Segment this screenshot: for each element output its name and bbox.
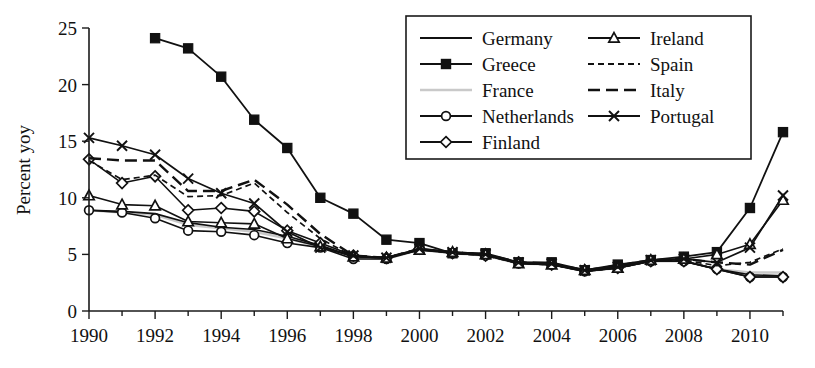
x-tick-label: 1992 bbox=[136, 325, 174, 346]
data-point bbox=[183, 174, 193, 184]
legend-label: France bbox=[482, 80, 534, 101]
x-tick-label: 1998 bbox=[334, 325, 372, 346]
series-line bbox=[89, 210, 783, 276]
data-point bbox=[150, 34, 159, 43]
legend-label: Finland bbox=[482, 132, 541, 153]
y-tick-label: 25 bbox=[58, 18, 77, 39]
data-point bbox=[216, 203, 227, 214]
x-tick-label: 1996 bbox=[268, 325, 306, 346]
y-axis-title: Percent yoy bbox=[13, 124, 34, 215]
data-point bbox=[382, 235, 391, 244]
data-point bbox=[151, 214, 160, 223]
legend-label: Portugal bbox=[650, 106, 714, 127]
x-tick-label: 2004 bbox=[533, 325, 572, 346]
data-point bbox=[250, 231, 259, 240]
data-point bbox=[441, 59, 450, 68]
legend-label: Germany bbox=[482, 28, 553, 49]
data-point bbox=[745, 203, 754, 212]
series-line bbox=[89, 210, 783, 277]
line-chart: 0510152025199019921994199619982000200220… bbox=[0, 0, 815, 368]
chart-container: 0510152025199019921994199619982000200220… bbox=[0, 0, 815, 368]
data-point bbox=[184, 44, 193, 53]
x-tick-label: 2010 bbox=[731, 325, 769, 346]
x-tick-label: 2002 bbox=[467, 325, 505, 346]
y-tick-label: 5 bbox=[68, 244, 78, 265]
x-tick-label: 1994 bbox=[202, 325, 241, 346]
data-point bbox=[217, 227, 226, 236]
legend-label: Greece bbox=[482, 54, 536, 75]
legend-label: Ireland bbox=[650, 28, 704, 49]
x-tick-label: 1990 bbox=[70, 325, 108, 346]
data-point bbox=[217, 72, 226, 81]
y-tick-label: 20 bbox=[58, 75, 77, 96]
y-tick-label: 15 bbox=[58, 131, 77, 152]
legend-label: Italy bbox=[650, 80, 685, 101]
x-tick-label: 2008 bbox=[665, 325, 703, 346]
data-point bbox=[442, 112, 451, 121]
x-tick-label: 2000 bbox=[400, 325, 438, 346]
legend: GermanyGreeceFranceNetherlandsFinlandIre… bbox=[406, 16, 751, 159]
data-point bbox=[316, 193, 325, 202]
data-point bbox=[150, 150, 160, 160]
series-netherlands bbox=[85, 206, 788, 282]
data-point bbox=[283, 143, 292, 152]
x-tick-label: 2006 bbox=[599, 325, 637, 346]
plot-area: 0510152025199019921994199619982000200220… bbox=[13, 16, 788, 346]
data-point bbox=[349, 209, 358, 218]
data-point bbox=[184, 226, 193, 235]
series-germany bbox=[89, 210, 783, 276]
legend-label: Spain bbox=[650, 54, 694, 75]
legend-label: Netherlands bbox=[482, 106, 574, 127]
y-tick-label: 10 bbox=[58, 188, 77, 209]
data-point bbox=[250, 115, 259, 124]
y-tick-label: 0 bbox=[68, 301, 78, 322]
data-point bbox=[778, 128, 787, 137]
